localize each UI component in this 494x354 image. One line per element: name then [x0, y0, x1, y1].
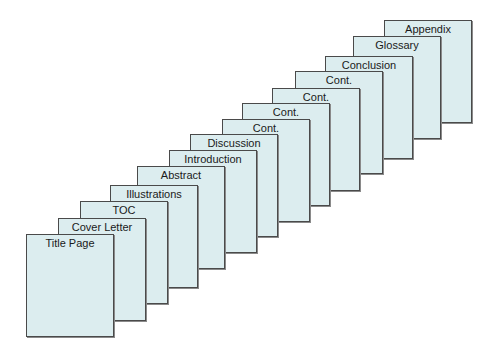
document-page-stack: Appendix Glossary Conclusion Cont. Cont.…: [0, 0, 494, 354]
page-label: Cont.: [243, 105, 329, 119]
page-label: Title Page: [27, 236, 113, 250]
page-label: Discussion: [191, 136, 277, 150]
page-label: Introduction: [170, 152, 256, 166]
page-label: Glossary: [354, 38, 440, 52]
page-label: Appendix: [385, 22, 471, 36]
page-label: Cont.: [296, 73, 382, 87]
page-label: Conclusion: [326, 58, 412, 72]
page-label: Cover Letter: [59, 220, 145, 234]
page-title-page: Title Page: [26, 234, 114, 337]
page-label: Cont.: [223, 121, 309, 135]
page-label: Cont.: [273, 90, 359, 104]
page-label: TOC: [81, 203, 167, 217]
page-label: Abstract: [138, 168, 224, 182]
page-label: Illustrations: [111, 187, 197, 201]
